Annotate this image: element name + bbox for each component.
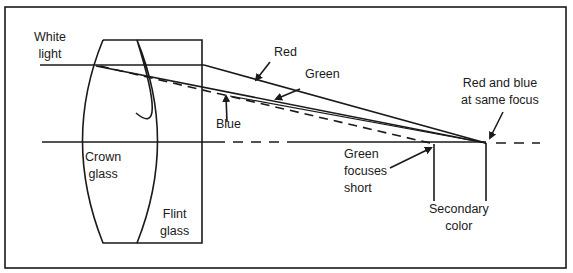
red-ray bbox=[204, 65, 486, 143]
green-ray-solid bbox=[230, 96, 486, 143]
green-ray bbox=[100, 66, 434, 144]
label-white-light: White light bbox=[34, 29, 66, 63]
green-arrow bbox=[276, 89, 300, 99]
label-crown-glass: Crown glass bbox=[85, 149, 121, 183]
label-red: Red bbox=[274, 44, 297, 61]
red-arrow bbox=[256, 62, 270, 80]
green-short-arrow bbox=[390, 148, 431, 168]
label-secondary-color: Secondary color bbox=[429, 201, 489, 235]
label-flint-glass: Flint glass bbox=[160, 206, 189, 240]
label-green: Green bbox=[305, 66, 340, 83]
redblue-arrow bbox=[490, 112, 503, 138]
label-red-blue-focus: Red and blue at same focus bbox=[461, 75, 539, 109]
label-blue: Blue bbox=[216, 116, 241, 133]
label-green-focuses-short: Green focuses short bbox=[344, 146, 387, 197]
